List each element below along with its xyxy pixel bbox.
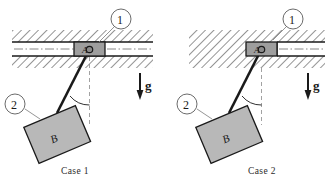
callout-1-label: 1: [289, 13, 295, 27]
pivot-pin: [258, 46, 264, 52]
gravity-vector: g: [137, 73, 152, 100]
slot-upper-wall: [12, 30, 153, 42]
pivot-pin: [86, 46, 92, 52]
angle-arc: [70, 96, 90, 105]
block-b: B: [24, 106, 91, 164]
case-1-diagram: A θ₀ B g 1 2: [0, 0, 167, 183]
callout-1-label: 1: [117, 13, 123, 27]
case-2-diagram: A θ₀ B g 1 2: [167, 0, 335, 183]
gravity-label: g: [313, 78, 320, 93]
gravity-label: g: [145, 78, 152, 93]
gravity-arrowhead: [137, 90, 144, 100]
angle-arc: [242, 96, 262, 105]
block-a: A: [74, 42, 105, 56]
block-b: B: [196, 106, 263, 164]
gravity-arrowhead: [305, 90, 312, 100]
gravity-vector: g: [305, 73, 320, 100]
callout-2-label: 2: [183, 98, 189, 112]
block-a: A: [246, 42, 277, 56]
case-2-caption: Case 2: [248, 166, 276, 176]
physics-figure: A θ₀ B g 1 2: [0, 0, 335, 183]
callout-2: 2: [177, 94, 212, 119]
callout-2-label: 2: [11, 98, 17, 112]
callout-2: 2: [5, 94, 40, 119]
case-1-caption: Case 1: [61, 166, 89, 176]
